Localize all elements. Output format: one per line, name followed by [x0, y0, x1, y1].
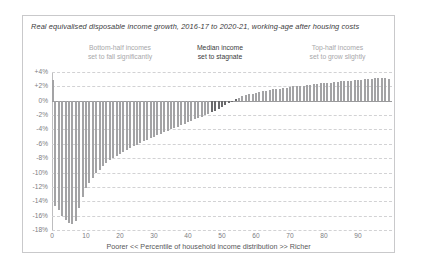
bar [238, 98, 240, 101]
x-axis-tick-label: 80 [320, 232, 327, 239]
bar [282, 88, 284, 101]
y-axis-tick-label: +4% [12, 68, 48, 75]
bar [88, 101, 90, 183]
bar [170, 101, 172, 130]
bar [296, 86, 298, 100]
annotation-top-half-line1: Top-half incomes [312, 44, 363, 51]
bar [133, 101, 135, 146]
annotation-median-line2: set to stagnate [172, 53, 268, 62]
bar [163, 101, 165, 133]
bar [82, 101, 84, 197]
bar [309, 85, 311, 101]
chart-title: Real equivalised disposable income growt… [31, 22, 391, 31]
bar [109, 101, 111, 161]
bar [313, 84, 315, 101]
bar [68, 101, 70, 223]
bar [214, 101, 216, 111]
bar [377, 78, 379, 100]
bar [194, 101, 196, 120]
y-axis-tick-label: +2% [12, 82, 48, 89]
y-axis-tick-label: -10% [12, 169, 48, 176]
bar [95, 101, 97, 174]
bar [381, 78, 383, 100]
bar-series [52, 72, 392, 230]
bar [299, 86, 301, 101]
bar [78, 101, 80, 209]
bar [71, 101, 73, 225]
x-axis-tick-label: 20 [116, 232, 123, 239]
bar [347, 81, 349, 101]
x-axis-labels: 0102030405060708090 [52, 232, 392, 242]
bar [184, 101, 186, 124]
bar [136, 101, 138, 145]
bar [99, 101, 101, 170]
bar [139, 101, 141, 143]
bar [119, 101, 121, 154]
bar [258, 92, 260, 101]
bar [129, 101, 131, 148]
bar [286, 88, 288, 101]
bar [323, 83, 325, 100]
bar [112, 101, 114, 158]
bar [204, 101, 206, 115]
y-axis-tick-label: -6% [12, 140, 48, 147]
y-axis-tick-label: -4% [12, 125, 48, 132]
bar [190, 101, 192, 121]
bar [279, 89, 281, 101]
bar [326, 83, 328, 101]
bar [371, 79, 373, 101]
y-axis-tick-label: -8% [12, 154, 48, 161]
annotation-median: Median income set to stagnate [172, 44, 268, 61]
bar [187, 101, 189, 123]
bar [211, 101, 213, 112]
bar [357, 80, 359, 101]
bar [52, 83, 54, 101]
x-axis-tick-label: 90 [354, 232, 361, 239]
bar [105, 101, 107, 163]
bar [102, 101, 104, 166]
bar [228, 101, 230, 103]
bar [252, 94, 254, 101]
y-axis-labels: +4%+2%0%-2%-4%-6%-8%-10%-12%-14%-16%-18% [8, 72, 48, 230]
bar [364, 79, 366, 101]
bar [146, 101, 148, 140]
plot-area [52, 72, 392, 230]
bar [330, 83, 332, 101]
bar [262, 91, 264, 100]
bar [292, 86, 294, 100]
y-axis-tick-label: -2% [12, 111, 48, 118]
bar [354, 80, 356, 101]
x-axis-tick-label: 60 [252, 232, 259, 239]
bar [85, 101, 87, 189]
bar [61, 101, 63, 216]
bar [367, 79, 369, 101]
y-axis-tick-label: -18% [12, 226, 48, 233]
bar [289, 87, 291, 101]
y-axis-tick-label: -16% [12, 212, 48, 219]
bar [265, 91, 267, 101]
y-axis-tick-label: -12% [12, 183, 48, 190]
bar [350, 81, 352, 101]
bar [272, 89, 274, 100]
y-axis-tick-label: 0% [12, 97, 48, 104]
x-axis-tick-label: 40 [184, 232, 191, 239]
annotation-top-half-line2: set to grow slightly [285, 53, 390, 62]
bar [235, 99, 237, 100]
bar [231, 101, 233, 102]
bar [306, 85, 308, 101]
bar [320, 83, 322, 100]
bar [343, 81, 345, 100]
bar [340, 81, 342, 100]
annotation-bottom-half: Bottom-half incomes set to fall signific… [60, 44, 180, 61]
bar [143, 101, 145, 141]
x-axis-tick-label: 70 [286, 232, 293, 239]
annotation-top-half: Top-half incomes set to grow slightly [285, 44, 390, 61]
bar [360, 80, 362, 101]
bar [337, 82, 339, 101]
bar [92, 101, 94, 178]
x-axis-tick-label: 30 [150, 232, 157, 239]
x-axis-tick-label: 10 [82, 232, 89, 239]
bar [316, 84, 318, 101]
x-axis-tick-label: 50 [218, 232, 225, 239]
bar [197, 101, 199, 118]
